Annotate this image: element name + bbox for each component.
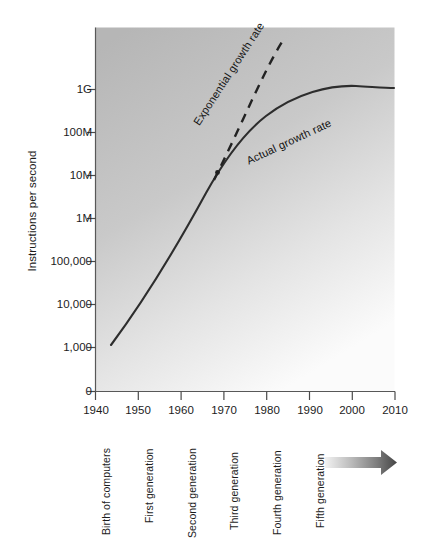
y-tick-label: 1G bbox=[8, 83, 92, 95]
x-tick-label: 2000 bbox=[330, 404, 374, 416]
era-label-fourth-generation: Fourth generation bbox=[271, 450, 283, 535]
plot-area-background bbox=[96, 28, 395, 392]
y-tick-label: 1M bbox=[8, 212, 92, 224]
era-label-second-generation: Second generation bbox=[186, 448, 198, 538]
annotation-actual-growth-rate: Actual growth rate bbox=[244, 117, 333, 167]
chart-figure: Instructions per second 1G 100M 10M 1M 1… bbox=[0, 0, 432, 544]
annotation-exponential-growth-rate: Exponential growth rate bbox=[191, 20, 267, 127]
y-tick-label: 1,000 bbox=[8, 341, 92, 353]
y-tick-label: 0 bbox=[8, 385, 92, 397]
y-axis-tick-labels: 1G 100M 10M 1M 100,000 10,000 1,000 0 bbox=[0, 0, 92, 544]
x-tick-label: 1970 bbox=[202, 404, 246, 416]
era-label-first-generation: First generation bbox=[143, 448, 155, 523]
x-tick-label: 2010 bbox=[373, 404, 417, 416]
actual-growth-rate-curve bbox=[111, 86, 394, 345]
era-label-fifth-generation: Fifth generation bbox=[314, 453, 326, 528]
x-tick-label: 1940 bbox=[74, 404, 118, 416]
y-tick-label: 10,000 bbox=[8, 298, 92, 310]
x-axis-ticks bbox=[96, 392, 396, 401]
x-tick-label: 1960 bbox=[159, 404, 203, 416]
x-tick-label: 1950 bbox=[116, 404, 160, 416]
y-tick-label: 100,000 bbox=[8, 255, 92, 267]
y-tick-label: 10M bbox=[8, 169, 92, 181]
era-label-third-generation: Third generation bbox=[228, 452, 240, 530]
divergence-point-marker bbox=[215, 170, 220, 175]
era-label-birth-of-computers: Birth of computers bbox=[100, 448, 112, 535]
x-tick-label: 1990 bbox=[288, 404, 332, 416]
y-tick-label: 100M bbox=[8, 126, 92, 138]
timeline-arrow bbox=[325, 450, 397, 475]
x-tick-label: 1980 bbox=[245, 404, 289, 416]
